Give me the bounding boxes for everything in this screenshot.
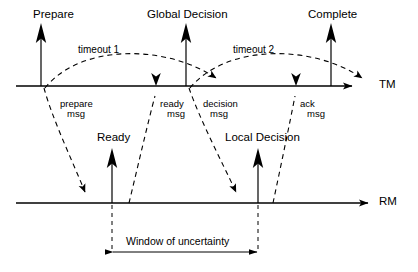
timeout-label-2: timeout 2	[233, 45, 274, 56]
diagram-canvas	[0, 0, 418, 272]
tm-event-marker-prepare	[36, 23, 46, 86]
event-label-complete: Complete	[308, 8, 357, 20]
window-of-uncertainty-label: Window of uncertainty	[126, 236, 229, 247]
message-label-prepare-msg-line2: msg	[60, 109, 93, 119]
rm-event-marker-ready	[107, 148, 117, 203]
timeline-diagram: TM RM Prepare Global Decision Complete R…	[0, 0, 418, 272]
message-arrow-ready-msg	[129, 96, 155, 203]
timeout-label-1: timeout 1	[78, 45, 119, 56]
event-label-local-decision: Local Decision	[225, 131, 300, 143]
event-label-prepare: Prepare	[33, 8, 74, 20]
axis-label-rm: RM	[379, 195, 397, 207]
timeout-1-arc	[45, 54, 216, 88]
message-label-ack-msg: ack msg	[300, 99, 325, 119]
axis-label-tm: TM	[379, 78, 396, 90]
message-label-ready-msg: ready msg	[160, 99, 185, 119]
message-label-decision-msg-line2: msg	[203, 109, 238, 119]
tm-event-marker-global-decision	[181, 23, 191, 86]
message-label-ack-msg-line2: msg	[300, 109, 325, 119]
tm-event-marker-complete	[326, 23, 336, 86]
timeout-2-arc	[190, 54, 362, 88]
tm-incoming-marker-ack	[291, 73, 301, 86]
message-label-ready-msg-line2: msg	[160, 109, 185, 119]
rm-event-marker-local-decision	[253, 148, 263, 203]
tm-incoming-marker-ready	[151, 73, 161, 86]
event-label-ready: Ready	[97, 131, 130, 143]
message-arrow-ack-msg	[273, 96, 295, 203]
message-label-prepare-msg: prepare msg	[60, 99, 93, 119]
message-label-decision-msg: decision msg	[203, 99, 238, 119]
event-label-global-decision: Global Decision	[147, 8, 228, 20]
